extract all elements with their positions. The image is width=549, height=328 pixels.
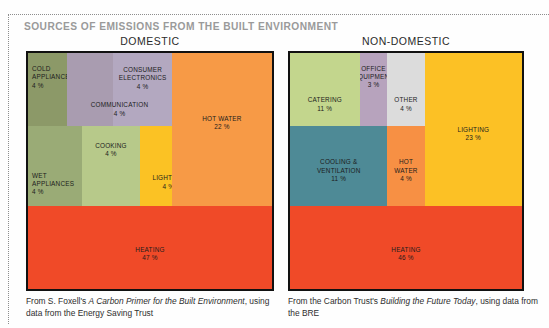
treemap-cell-label: LIGHTING 23 % bbox=[425, 117, 522, 142]
treemap-cell-heating[interactable]: HEATING 46 % bbox=[290, 206, 522, 289]
treemap-cell-label: HOT WATER 4 % bbox=[387, 150, 424, 183]
treemap-cell-label: CONSUMER ELECTRONICS 4 % bbox=[113, 58, 172, 91]
treemap-cell-other[interactable]: OTHER 4 % bbox=[387, 53, 424, 126]
treemap-cell-label: HOT WATER 22 % bbox=[172, 107, 272, 132]
treemap-cell-label: CATERING 11 % bbox=[290, 88, 360, 113]
page-dotted-rule-top bbox=[8, 14, 549, 15]
caption-text-italic: A Carbon Primer for the Built Environmen… bbox=[89, 296, 245, 306]
treemap-cell-hot-water[interactable]: HOT WATER 22 % bbox=[172, 53, 272, 206]
caption-text-italic: Building the Future Today bbox=[380, 296, 475, 306]
caption-domestic: From S. Foxell's A Carbon Primer for the… bbox=[26, 296, 276, 319]
treemap-cell-hot-water[interactable]: HOT WATER 4 % bbox=[387, 126, 424, 206]
treemap-cell-label: WET APPLIANCES 4 % bbox=[32, 164, 74, 197]
treemap-cell-cooking[interactable]: COOKING 4 % bbox=[82, 126, 141, 206]
panel-title-domestic: DOMESTIC bbox=[26, 35, 274, 47]
caption-text-pre: From the Carbon Trust's bbox=[288, 296, 380, 306]
caption-nondomestic: From the Carbon Trust's Building the Fut… bbox=[288, 296, 538, 319]
treemap-cell-label: COMMUNICATION 4 % bbox=[67, 93, 172, 118]
treemap-cell-office-equipment[interactable]: OFFICE EQUIPMENT 3 % bbox=[360, 53, 388, 126]
treemap-cell-label: COOLING & VENTILATION 11 % bbox=[290, 150, 387, 183]
treemap-cell-label: HEATING 47 % bbox=[28, 238, 272, 263]
figure-title: SOURCES OF EMISSIONS FROM THE BUILT ENVI… bbox=[24, 21, 338, 32]
figure-page: SOURCES OF EMISSIONS FROM THE BUILT ENVI… bbox=[0, 0, 549, 328]
panel-title-nondomestic: NON-DOMESTIC bbox=[288, 35, 524, 47]
caption-text-pre: From S. Foxell's bbox=[26, 296, 89, 306]
treemap-domestic: COLD APPLIANCES 4 % CONSUMER ELECTRONICS… bbox=[26, 51, 274, 291]
page-dotted-rule-left bbox=[8, 14, 9, 324]
treemap-cell-heating[interactable]: HEATING 47 % bbox=[28, 206, 272, 289]
treemap-cell-label: COOKING 4 % bbox=[82, 133, 141, 158]
treemap-cell-wet-appliances[interactable]: WET APPLIANCES 4 % bbox=[28, 126, 82, 206]
treemap-cell-catering[interactable]: CATERING 11 % bbox=[290, 53, 360, 126]
treemap-cell-lighting[interactable]: LIGHTING 23 % bbox=[425, 53, 522, 206]
treemap-cell-label: OTHER 4 % bbox=[387, 88, 424, 113]
treemap-nondomestic: CATERING 11 % OFFICE EQUIPMENT 3 % OTHER… bbox=[288, 51, 524, 291]
treemap-cell-label: OFFICE EQUIPMENT 3 % bbox=[360, 57, 388, 90]
treemap-cell-cooling-ventilation[interactable]: COOLING & VENTILATION 11 % bbox=[290, 126, 387, 206]
treemap-cell-label: HEATING 46 % bbox=[290, 238, 522, 263]
treemap-cell-communication-label-band: COMMUNICATION 4 % bbox=[67, 93, 172, 126]
